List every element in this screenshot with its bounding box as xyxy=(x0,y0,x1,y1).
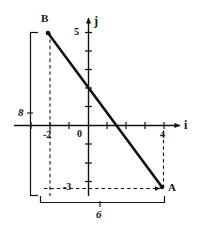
horizontal-measure-label: 6 xyxy=(96,209,102,220)
origin-label: 0 xyxy=(77,129,82,139)
x-tick-label-minus2: -2 xyxy=(43,130,51,140)
y-tick-label-minus3: -3 xyxy=(63,182,71,192)
x-axis-label: i xyxy=(184,119,187,131)
point-label-b: B xyxy=(41,13,48,24)
x-tick-label-4: 4 xyxy=(160,130,165,140)
y-tick-label-5: 5 xyxy=(74,27,79,37)
coordinate-plot-svg xyxy=(0,0,199,228)
segment-ab-group xyxy=(46,31,165,190)
point-a-marker xyxy=(160,185,165,190)
point-b-marker xyxy=(46,31,51,36)
x-axis-group xyxy=(14,122,180,129)
y-axis-label: j xyxy=(94,15,98,27)
y-axis-group xyxy=(85,18,92,196)
vertical-measure-label: 8 xyxy=(18,107,24,118)
graph-figure: B A i j 0 5 -2 4 -3 8 6 xyxy=(0,0,199,228)
vertical-dimension-bracket xyxy=(27,32,38,196)
point-label-a: A xyxy=(168,182,176,193)
guide-lines-group xyxy=(44,33,164,196)
segment-ab-line xyxy=(48,33,162,187)
horizontal-dimension-bracket xyxy=(40,196,165,207)
